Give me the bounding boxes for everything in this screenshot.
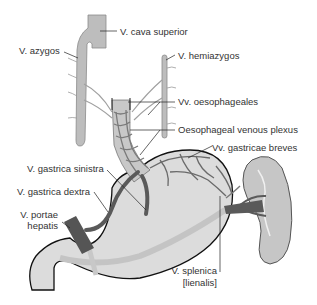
label-v-portae-line1: V. portae (20, 209, 58, 220)
label-v-splenica-line2: [lienalis] (160, 277, 217, 288)
label-oesophageal-venous-plexus: Oesophageal venous plexus (178, 124, 298, 135)
label-vv-oesophageales: Vv. oesophageales (178, 96, 258, 107)
label-v-splenica-line1: V. splenica (160, 265, 217, 276)
label-v-gastrica-sinistra: V. gastrica sinistra (27, 163, 104, 174)
label-v-azygos: V. azygos (19, 45, 60, 56)
label-vena-cava-superior: V. cava superior (120, 26, 188, 37)
azygos-tributaries (68, 58, 77, 118)
label-v-portae-line2: hepatis (20, 220, 58, 231)
label-v-gastrica-dextra: V. gastrica dextra (17, 186, 90, 197)
v-hemiazygos (162, 55, 176, 138)
label-v-hemiazygos: V. hemiazygos (178, 50, 239, 61)
label-vv-gastricae-breves: Vv. gastricae breves (212, 142, 297, 153)
vena-cava-superior (76, 15, 106, 146)
